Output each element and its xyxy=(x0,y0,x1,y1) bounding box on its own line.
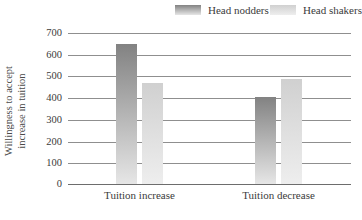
x-axis-line xyxy=(68,184,351,185)
plot-area xyxy=(68,33,351,185)
y-tick-label-100: 100 xyxy=(0,157,62,169)
bar-head-nodders-tuition-increase xyxy=(116,44,137,184)
legend-item-head-nodders: Head nodders xyxy=(175,4,269,16)
gridline-600 xyxy=(68,55,351,56)
y-tick-label-500: 500 xyxy=(0,70,62,82)
y-axis-tick-labels: 0100200300400500600700 xyxy=(0,33,62,185)
gridline-400 xyxy=(68,98,351,99)
y-tick-label-300: 300 xyxy=(0,114,62,126)
head-nodders-label: Head nodders xyxy=(208,4,269,16)
x-category-label-tuition-increase: Tuition increase xyxy=(104,189,175,201)
y-tick-label-700: 700 xyxy=(0,27,62,39)
gridline-100 xyxy=(68,163,351,164)
legend: Head nodders Head shakers xyxy=(173,3,362,19)
x-axis-category-labels: Tuition increaseTuition decrease xyxy=(68,189,351,205)
bar-chart-figure: Head nodders Head shakers Willingness to… xyxy=(0,0,362,220)
bar-head-shakers-tuition-increase xyxy=(142,83,163,184)
legend-item-head-shakers: Head shakers xyxy=(270,4,362,16)
gridline-200 xyxy=(68,142,351,143)
x-category-label-tuition-decrease: Tuition decrease xyxy=(242,189,315,201)
bar-head-shakers-tuition-decrease xyxy=(281,79,302,184)
y-tick-label-200: 200 xyxy=(0,136,62,148)
gridline-500 xyxy=(68,76,351,77)
gridline-700 xyxy=(68,33,351,34)
head-shakers-label: Head shakers xyxy=(303,4,362,16)
y-tick-label-0: 0 xyxy=(0,178,62,190)
gridline-300 xyxy=(68,120,351,121)
y-tick-label-400: 400 xyxy=(0,92,62,104)
head-nodders-swatch xyxy=(175,5,201,15)
y-tick-label-600: 600 xyxy=(0,49,62,61)
bar-head-nodders-tuition-decrease xyxy=(255,97,276,184)
head-shakers-swatch xyxy=(270,5,296,15)
